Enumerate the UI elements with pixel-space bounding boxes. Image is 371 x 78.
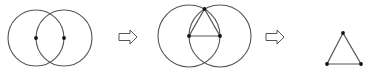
point xyxy=(187,34,191,38)
point xyxy=(34,36,38,40)
arrow-shape xyxy=(119,30,137,44)
triangle xyxy=(327,33,361,64)
right-arrow-icon xyxy=(266,30,284,44)
point xyxy=(359,62,363,66)
arrow-shape xyxy=(266,30,284,44)
point xyxy=(341,31,345,35)
step-3-equilateral-triangle xyxy=(325,31,363,66)
step-2-circles-with-triangle xyxy=(158,5,251,67)
construction-diagram xyxy=(0,0,371,78)
point xyxy=(218,34,222,38)
point xyxy=(203,7,207,11)
step-1-two-circles xyxy=(8,10,92,66)
point xyxy=(325,62,329,66)
point xyxy=(62,36,66,40)
triangle xyxy=(189,9,220,36)
right-arrow-icon xyxy=(119,30,137,44)
